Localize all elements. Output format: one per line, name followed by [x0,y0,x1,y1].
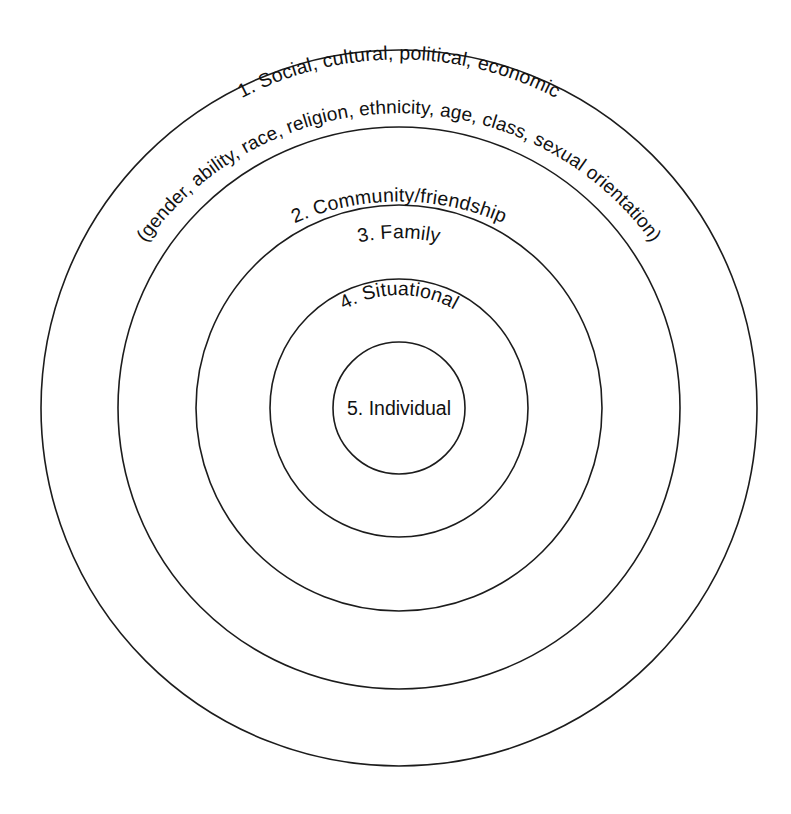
ring-label-level-3: 3. Family [355,220,442,246]
concentric-circles-diagram: 1. Social, cultural, political, economic… [0,0,791,814]
diagram-canvas: 1. Social, cultural, political, economic… [0,0,791,814]
ring-label-level-5: 5. Individual [347,397,451,419]
ring-label-level-1: 1. Social, cultural, political, economic [234,41,565,101]
ring-label-level-4: 4. Situational [335,277,462,313]
ring-label-level-1-text: 1. Social, cultural, political, economic [234,41,565,101]
ring-label-level-3-text: 3. Family [355,220,442,246]
ring-label-level-4-text: 4. Situational [335,277,462,313]
